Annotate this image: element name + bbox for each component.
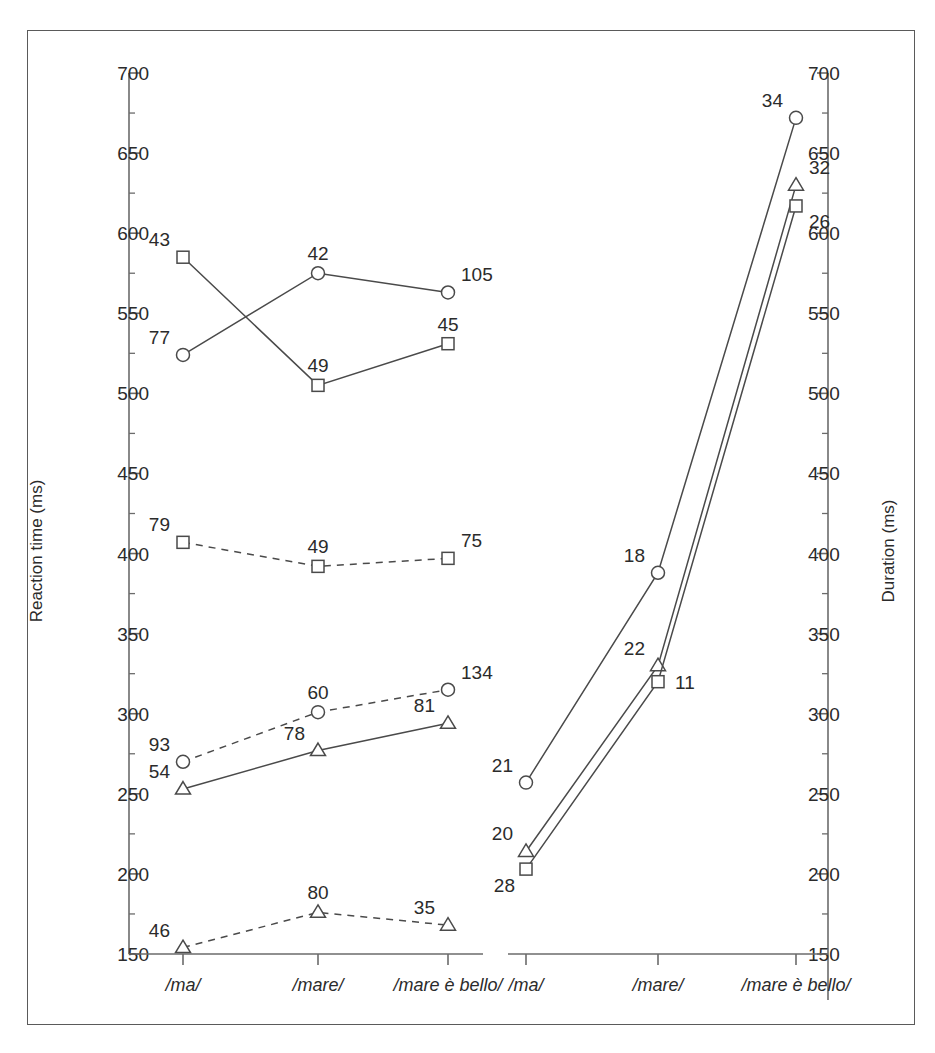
- square-marker: [177, 251, 189, 263]
- right-panel: 700650600550500450400350300250200150 /ma…: [492, 63, 898, 1000]
- series-line-solid-triangle: [526, 185, 796, 851]
- left-y-axis: 700650600550500450400350300250200150: [117, 63, 149, 965]
- right-axis-title: Duration (ms): [879, 500, 898, 603]
- left-panel: 700650600550500450400350300250200150 /ma…: [28, 63, 505, 995]
- l-y-tick-label: 500: [117, 383, 149, 404]
- r-y-tick-label: 400: [808, 544, 840, 565]
- triangle-marker: [441, 716, 456, 729]
- left-x-axis: /ma//mare//mare è bello/: [129, 954, 505, 995]
- l-y-tick-label: 300: [117, 704, 149, 725]
- data-point-label: 134: [461, 662, 493, 683]
- right-series-group: [519, 111, 804, 875]
- circle-marker: [442, 286, 455, 299]
- left-x-category-labels: /ma//mare//mare è bello/: [163, 975, 504, 995]
- square-marker: [442, 338, 454, 350]
- triangle-marker: [789, 178, 804, 191]
- data-point-label: 21: [492, 755, 513, 776]
- data-point-label: 11: [675, 672, 695, 693]
- r-y-tick-label: 450: [808, 463, 840, 484]
- square-marker: [312, 560, 324, 572]
- data-point-label: 81: [414, 695, 435, 716]
- data-point-label: 105: [461, 264, 493, 285]
- r-x-category-label: /mare è bello/: [739, 975, 852, 995]
- r-y-tick-label: 500: [808, 383, 840, 404]
- data-point-label: 49: [307, 536, 328, 557]
- data-point-label: 75: [461, 530, 482, 551]
- r-y-tick-label: 250: [808, 784, 840, 805]
- data-point-label: 43: [149, 229, 170, 250]
- data-point-label: 49: [307, 355, 328, 376]
- left-y-tick-marks: [129, 73, 140, 954]
- right-x-axis: /ma//mare//mare è bello/: [506, 954, 852, 995]
- l-y-tick-label: 400: [117, 544, 149, 565]
- right-x-category-labels: /ma//mare//mare è bello/: [506, 975, 852, 995]
- data-point-label: 26: [809, 211, 830, 232]
- data-point-label: 93: [149, 734, 170, 755]
- circle-marker: [177, 755, 190, 768]
- l-x-category-label: /mare è bello/: [391, 975, 504, 995]
- left-x-tick-marks: [183, 954, 448, 965]
- left-point-labels: 43494577421057949759360134547881468035: [149, 229, 493, 940]
- square-marker: [312, 379, 324, 391]
- data-point-label: 60: [307, 682, 328, 703]
- data-point-label: 28: [494, 875, 515, 896]
- l-y-tick-label: 200: [117, 864, 149, 885]
- square-marker: [652, 676, 664, 688]
- data-point-label: 20: [492, 823, 513, 844]
- data-point-label: 77: [149, 327, 170, 348]
- square-marker: [520, 863, 532, 875]
- dual-panel-line-chart: 700650600550500450400350300250200150 /ma…: [28, 31, 912, 1022]
- right-x-tick-marks: [526, 954, 796, 965]
- l-x-category-label: /mare/: [290, 975, 345, 995]
- l-y-tick-label: 650: [117, 143, 149, 164]
- circle-marker: [177, 348, 190, 361]
- triangle-marker: [311, 905, 326, 918]
- series-line-solid-circle: [183, 273, 448, 355]
- data-point-label: 45: [437, 314, 458, 335]
- figure-border: 700650600550500450400350300250200150 /ma…: [27, 30, 915, 1025]
- l-y-tick-label: 450: [117, 463, 149, 484]
- data-point-label: 46: [149, 920, 170, 941]
- l-y-tick-label: 250: [117, 784, 149, 805]
- r-y-tick-label: 200: [808, 864, 840, 885]
- r-y-tick-label: 550: [808, 303, 840, 324]
- data-point-label: 54: [149, 761, 171, 782]
- r-x-category-label: /ma/: [506, 975, 545, 995]
- r-y-tick-label: 300: [808, 704, 840, 725]
- circle-marker: [790, 111, 803, 124]
- data-point-label: 78: [284, 723, 305, 744]
- data-point-label: 32: [809, 157, 830, 178]
- series-line-solid-square: [526, 206, 796, 869]
- r-y-tick-label: 350: [808, 624, 840, 645]
- l-y-tick-label: 350: [117, 624, 149, 645]
- right-point-labels: 211834202232281126: [492, 90, 830, 896]
- circle-marker: [520, 776, 533, 789]
- data-point-label: 80: [307, 882, 328, 903]
- l-y-tick-label: 550: [117, 303, 149, 324]
- square-marker: [177, 536, 189, 548]
- data-point-label: 22: [624, 638, 645, 659]
- right-y-tick-marks: [817, 73, 828, 954]
- data-point-label: 35: [414, 897, 435, 918]
- r-x-category-label: /mare/: [630, 975, 685, 995]
- data-point-label: 34: [762, 90, 784, 111]
- circle-marker: [442, 683, 455, 696]
- circle-marker: [312, 267, 325, 280]
- square-marker: [790, 200, 802, 212]
- figure-canvas: 700650600550500450400350300250200150 /ma…: [0, 0, 935, 1053]
- square-marker: [442, 552, 454, 564]
- l-y-tick-label: 600: [117, 223, 149, 244]
- l-x-category-label: /ma/: [163, 975, 202, 995]
- triangle-marker: [519, 844, 534, 857]
- right-y-axis: 700650600550500450400350300250200150: [808, 63, 840, 1000]
- r-y-tick-label: 700: [808, 63, 840, 84]
- data-point-label: 79: [149, 514, 170, 535]
- circle-marker: [652, 566, 665, 579]
- left-axis-title: Reaction time (ms): [28, 480, 46, 623]
- data-point-label: 18: [624, 545, 645, 566]
- circle-marker: [312, 706, 325, 719]
- l-y-tick-label: 700: [117, 63, 149, 84]
- data-point-label: 42: [307, 243, 328, 264]
